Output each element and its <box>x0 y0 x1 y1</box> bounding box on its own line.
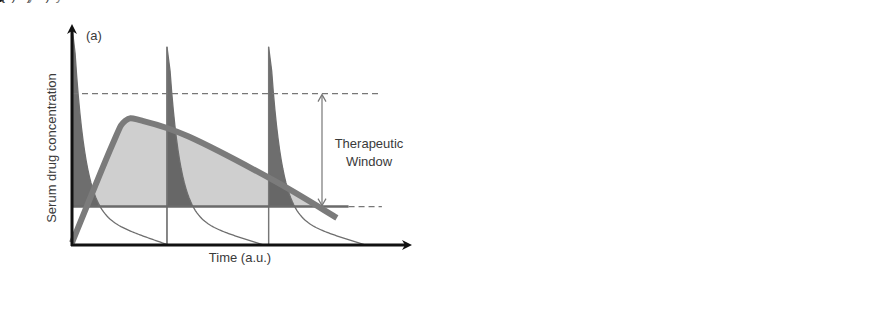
series-label-non-pegylated: Non-PEGylated NPs <box>0 0 119 3</box>
panel-b: (b) PNPs in Blood (% of initial dose) Ti… <box>0 0 119 3</box>
therapeutic-window-arrow <box>318 95 326 206</box>
therapeutic-window-label-line2: Window <box>346 154 393 169</box>
y-axis-label-a: Serum drug concentration <box>44 73 59 223</box>
x-axis-label-a: Time (a.u.) <box>209 250 271 265</box>
panel-label-a: (a) <box>86 28 102 43</box>
figure: (a) Serum drug concentration Time (a.u.)… <box>0 0 874 335</box>
therapeutic-window-label-line1: Therapeutic <box>335 136 404 151</box>
panel-a: (a) Serum drug concentration Time (a.u.)… <box>44 27 408 265</box>
